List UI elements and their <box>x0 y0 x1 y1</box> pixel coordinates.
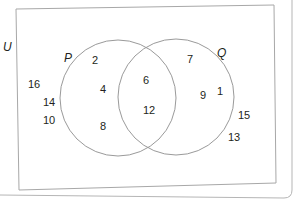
q-only-value: 1 <box>217 85 223 97</box>
p-only-value: 4 <box>100 83 106 95</box>
intersection-value: 12 <box>143 104 155 116</box>
outside-value: 15 <box>238 109 250 121</box>
set-q-label: Q <box>217 46 226 60</box>
outside-value: 14 <box>43 96 55 108</box>
intersection-value: 6 <box>143 74 149 86</box>
p-only-value: 8 <box>100 120 106 132</box>
outside-value: 16 <box>28 78 40 90</box>
p-only-value: 2 <box>92 54 98 66</box>
universal-label: U <box>3 40 12 54</box>
q-only-value: 7 <box>187 53 193 65</box>
set-p-label: P <box>64 51 72 65</box>
q-only-value: 9 <box>200 89 206 101</box>
outside-value: 13 <box>228 131 240 143</box>
venn-diagram: U P Q 2 4 8 6 12 7 9 1 16 14 10 15 13 <box>0 0 296 200</box>
outside-value: 10 <box>43 114 55 126</box>
